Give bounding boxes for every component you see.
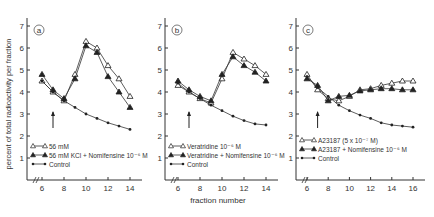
data-point — [241, 63, 247, 68]
data-point — [127, 93, 133, 98]
y-tick-label: 7 — [20, 22, 25, 31]
data-point — [243, 119, 246, 122]
panel-label: a — [37, 26, 42, 35]
data-point — [74, 106, 77, 109]
y-tick-label: 2 — [158, 132, 163, 141]
data-point — [412, 126, 415, 129]
data-point — [199, 97, 202, 100]
legend-entry: A23187 + Nomifensine 10⁻⁶ M — [318, 146, 407, 153]
data-point — [399, 78, 405, 83]
x-tick-label: 6 — [40, 184, 45, 193]
data-point — [252, 63, 258, 68]
data-point — [306, 75, 309, 78]
y-tick-label: 2 — [20, 132, 25, 141]
y-tick-label: 5 — [289, 66, 294, 75]
x-tick-label: 8 — [198, 184, 203, 193]
y-tick-label: 7 — [158, 22, 163, 31]
x-tick-label: 10 — [218, 184, 227, 193]
data-point — [118, 125, 121, 128]
figure: 123456768101214a56 mM56 mM KCl + Nomifen… — [0, 0, 434, 217]
data-point — [39, 71, 45, 76]
x-tick-label: 6 — [305, 184, 310, 193]
legend-entry: 56 mM — [49, 143, 69, 150]
y-tick-label: 6 — [20, 44, 25, 53]
data-point — [63, 99, 66, 102]
x-tick-label: 10 — [345, 184, 354, 193]
panel-a: 123456768101214a56 mM56 mM KCl + Nomifen… — [20, 18, 148, 193]
y-tick-label: 1 — [289, 154, 294, 163]
data-point — [359, 114, 362, 117]
x-tick-label: 12 — [366, 184, 375, 193]
x-tick-label: 16 — [409, 184, 418, 193]
data-point — [389, 86, 395, 91]
data-point — [127, 104, 133, 109]
x-tick-label: 14 — [262, 184, 271, 193]
y-tick-label: 5 — [20, 66, 25, 75]
y-tick-label: 2 — [289, 132, 294, 141]
y-tick-label: 3 — [20, 110, 25, 119]
legend-entry: 56 mM KCl + Nomifensine 10⁻⁶ M — [49, 152, 148, 159]
y-tick-label: 6 — [289, 44, 294, 53]
y-axis-label: percent of total radioactivity per fract… — [4, 39, 13, 170]
data-point — [327, 95, 330, 98]
x-tick-label: 12 — [104, 184, 113, 193]
legend-entry: Veratridine 10⁻⁶ M — [187, 143, 241, 150]
x-axis-label: fraction number — [190, 196, 246, 205]
x-tick-label: 12 — [240, 184, 249, 193]
data-point — [105, 74, 111, 79]
legend-entry: Control — [187, 161, 209, 168]
data-point — [410, 87, 416, 92]
data-point — [380, 121, 383, 124]
x-tick-label: 14 — [126, 184, 135, 193]
panel-label: c — [306, 26, 310, 35]
series-line — [307, 77, 413, 128]
data-point — [337, 104, 340, 107]
data-point — [221, 109, 224, 112]
data-point — [188, 91, 191, 94]
data-point — [52, 91, 55, 94]
panel-label: b — [175, 26, 180, 35]
y-tick-label: 7 — [289, 22, 294, 31]
legend-entry: Control — [49, 161, 71, 168]
data-point — [107, 121, 110, 124]
legend-entry: A23187 (5 x 10⁻⁷ M) — [318, 137, 378, 145]
legend-entry: Veratridine + Nomifensine 10⁻⁶ M — [187, 152, 285, 159]
y-tick-label: 4 — [289, 88, 294, 97]
y-tick-label: 4 — [158, 88, 163, 97]
x-tick-label: 8 — [326, 184, 331, 193]
y-tick-label: 6 — [158, 44, 163, 53]
x-tick-label: 10 — [82, 184, 91, 193]
legend-entry: Control — [318, 155, 340, 162]
data-point — [105, 63, 111, 68]
x-tick-label: 6 — [176, 184, 181, 193]
series-line — [178, 83, 266, 125]
panel-b: 123456768101214bVeratridine 10⁻⁶ MVeratr… — [158, 18, 285, 193]
data-point — [210, 104, 213, 107]
panel-c: 12345676810121416cA23187 (5 x 10⁻⁷ M)A23… — [289, 18, 425, 193]
data-point — [129, 128, 132, 131]
y-tick-label: 1 — [158, 154, 163, 163]
data-point — [369, 117, 372, 120]
data-point — [265, 124, 268, 127]
data-point — [85, 113, 88, 116]
y-tick-label: 1 — [20, 154, 25, 163]
data-point — [177, 82, 180, 85]
data-point — [263, 71, 269, 76]
data-point — [316, 86, 319, 89]
data-point — [232, 115, 235, 118]
data-point — [410, 78, 416, 83]
y-tick-label: 3 — [289, 110, 294, 119]
y-tick-label: 3 — [158, 110, 163, 119]
x-tick-label: 14 — [387, 184, 396, 193]
data-point — [116, 89, 122, 94]
data-point — [263, 78, 269, 83]
data-point — [254, 123, 257, 126]
y-tick-label: 4 — [20, 88, 25, 97]
x-tick-label: 8 — [62, 184, 67, 193]
data-point — [241, 56, 247, 61]
data-point — [41, 80, 44, 83]
data-point — [96, 117, 99, 120]
data-point — [348, 109, 351, 112]
y-tick-label: 5 — [158, 66, 163, 75]
data-point — [252, 69, 258, 74]
